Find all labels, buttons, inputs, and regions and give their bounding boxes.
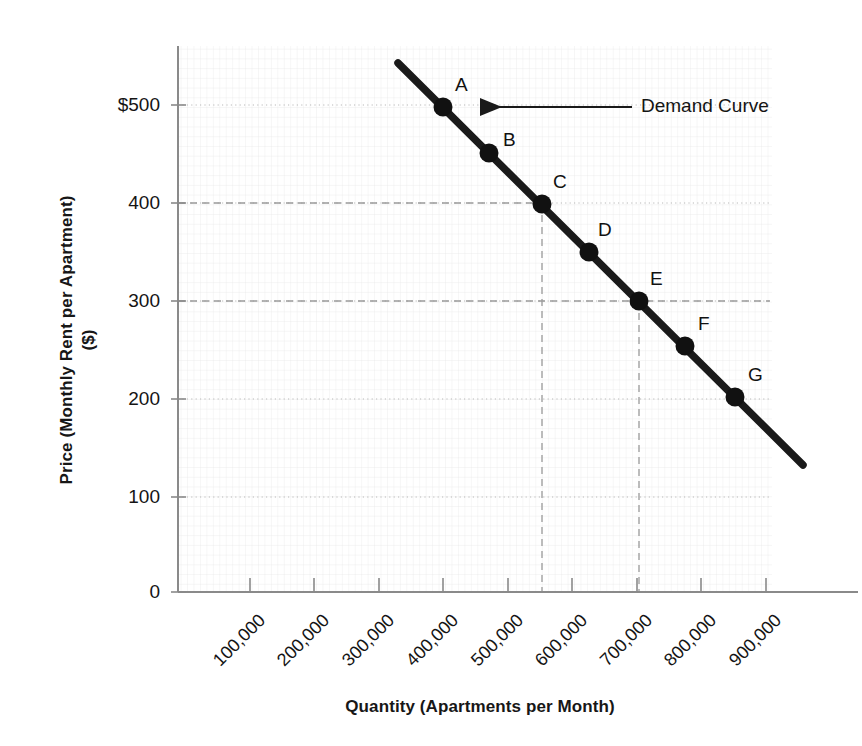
data-point-c [533,195,552,214]
x-axis-title: Quantity (Apartments per Month) [180,697,780,717]
demand-curve-annotation-label: Demand Curve [641,95,769,117]
y-tick-label-500: $500 [60,94,160,116]
point-label-e: E [650,268,663,290]
point-label-c: C [553,171,567,193]
point-label-g: G [748,364,763,386]
data-point-g [726,388,745,407]
data-point-f [676,337,695,356]
demand-curve-chart: $500 400 300 200 100 0 100,000 200,000 3… [0,0,862,746]
data-point-d [580,243,599,262]
y-axis-title-line2: ($) [79,329,98,350]
y-tick-label-0: 0 [60,581,160,603]
point-label-f: F [698,313,710,335]
point-label-b: B [503,129,516,151]
data-point-b [480,144,499,163]
point-label-d: D [598,219,612,241]
y-axis-title-line1: Price (Monthly Rent per Apartment) [57,196,76,485]
data-point-e [630,292,649,311]
data-point-a [434,98,453,117]
y-axis-title: Price (Monthly Rent per Apartment) ($) [56,150,100,530]
point-label-a: A [455,74,468,96]
